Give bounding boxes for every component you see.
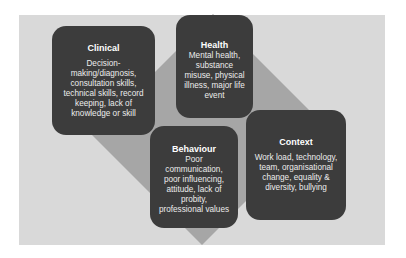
behaviour-line: communication, xyxy=(159,165,229,175)
health-line: Mental health, xyxy=(184,51,245,61)
clinical-box: Clinical Decision- making/diagnosis, con… xyxy=(52,26,155,135)
health-line: illness, major life xyxy=(184,81,245,91)
clinical-line: consultation skills, xyxy=(63,79,143,89)
behaviour-line: poor influencing, xyxy=(159,175,229,185)
context-line: team, organisational xyxy=(255,163,338,173)
health-box: Health Mental health, substance misuse, … xyxy=(176,15,253,118)
behaviour-title: Behaviour xyxy=(172,144,216,155)
health-line: misuse, physical xyxy=(184,71,245,81)
context-line: change, equality & xyxy=(255,173,338,183)
behaviour-box: Behaviour Poor communication, poor influ… xyxy=(150,126,238,228)
clinical-line: keeping, lack of xyxy=(63,99,143,109)
context-description: Work load, technology, team, organisatio… xyxy=(255,153,338,193)
behaviour-description: Poor communication, poor influencing, at… xyxy=(159,155,229,215)
context-line: diversity, bullying xyxy=(255,183,338,193)
clinical-line: technical skills, record xyxy=(63,89,143,99)
clinical-description: Decision- making/diagnosis, consultation… xyxy=(63,59,143,119)
behaviour-line: attitude, lack of xyxy=(159,185,229,195)
context-box: Context Work load, technology, team, org… xyxy=(246,110,346,220)
context-title: Context xyxy=(279,137,313,148)
health-description: Mental health, substance misuse, physica… xyxy=(184,51,245,101)
health-line: substance xyxy=(184,61,245,71)
clinical-line: Decision- xyxy=(63,59,143,69)
behaviour-line: professional values xyxy=(159,205,229,215)
clinical-line: knowledge or skill xyxy=(63,109,143,119)
context-line: Work load, technology, xyxy=(255,153,338,163)
health-title: Health xyxy=(201,40,229,51)
health-line: event xyxy=(184,91,245,101)
clinical-title: Clinical xyxy=(87,43,119,54)
clinical-line: making/diagnosis, xyxy=(63,69,143,79)
behaviour-line: probity, xyxy=(159,195,229,205)
behaviour-line: Poor xyxy=(159,155,229,165)
